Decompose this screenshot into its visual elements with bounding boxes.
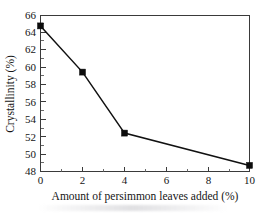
y-tick-label: 62 [25,43,36,55]
y-tick-label: 50 [25,148,37,160]
x-tick-label: 0 [38,174,44,186]
x-tick-label: 2 [80,174,86,186]
data-point-marker [247,162,253,168]
y-tick-label: 60 [25,61,37,73]
y-tick-label: 56 [25,96,37,108]
x-tick-label: 4 [122,174,128,186]
x-axis-title: Amount of persimmon leaves added (%) [52,190,239,203]
x-tick-label: 8 [206,174,212,186]
y-tick-label: 58 [25,78,37,90]
y-tick-label: 64 [25,26,37,38]
y-tick-label: 66 [25,9,37,21]
chart-figure: 48 50 52 54 56 58 60 62 64 66 0 2 4 6 8 … [0,0,265,216]
x-tick-label: 10 [244,174,256,186]
data-point-marker [122,130,128,136]
y-tick-label: 54 [25,113,37,125]
data-point-marker [38,23,44,29]
y-axis-title: Crystallinity (%) [4,55,17,133]
y-tick-label: 52 [25,131,36,143]
x-tick-label: 6 [164,174,170,186]
y-tick-label: 48 [25,165,37,177]
crystallinity-line-chart: 48 50 52 54 56 58 60 62 64 66 0 2 4 6 8 … [0,0,265,216]
data-point-marker [80,69,86,75]
